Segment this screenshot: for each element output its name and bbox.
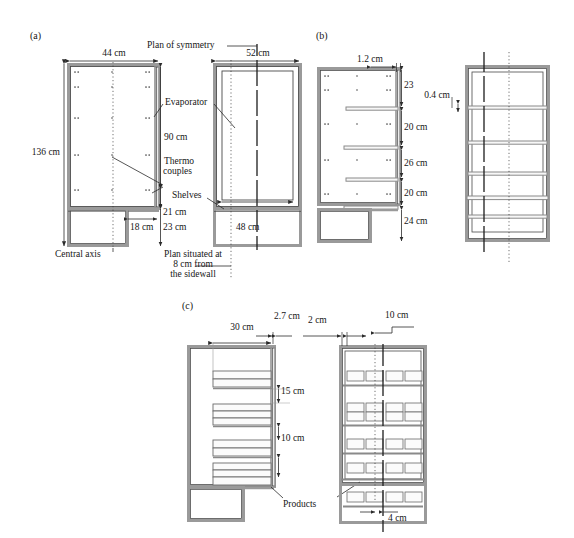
panel-tag-c: (c) (182, 300, 193, 311)
dim-label-44cm: 44 cm (84, 48, 144, 59)
dim-label-b-26: 26 cm (404, 158, 427, 169)
dim-label-15cm: 15 cm (281, 386, 304, 397)
dim-label-23cm: 23 cm (163, 222, 186, 233)
panel-tag-a: (a) (30, 30, 41, 41)
panel-b-front-cabinet (467, 52, 549, 262)
dim-label-1_2cm: 1.2 cm (345, 54, 395, 65)
dim-label-18cm: 18 cm (130, 222, 153, 233)
dim-2_7cm (256, 332, 292, 344)
dim-10cm-top (375, 327, 414, 333)
panel-a-front-cabinet (214, 44, 301, 278)
dim-label-136cm: 136 cm (14, 147, 60, 158)
dim-label-b-24: 24 cm (404, 216, 427, 227)
dim-label-10cm-top: 10 cm (385, 310, 408, 321)
figure-canvas: (a) (b) (c) Plan of symmetry 44 cm 52 cm… (0, 0, 574, 538)
technical-drawing-svg (0, 0, 574, 538)
dim-label-4cm: 4 cm (388, 513, 407, 524)
dim-label-90cm: 90 cm (164, 132, 187, 143)
dim-2cm (303, 332, 366, 346)
panel-b-side-cabinet (318, 69, 400, 242)
dim-label-30cm: 30 cm (212, 322, 272, 333)
label-plan-of-symmetry: Plan of symmetry (147, 40, 215, 51)
label-evaporator: Evaporator (165, 97, 207, 108)
dim-0_4cm (452, 97, 458, 112)
panel-c-side-cabinet (188, 347, 275, 521)
dim-label-b-20b: 20 cm (404, 188, 427, 199)
dim-label-48cm: 48 cm (236, 222, 259, 233)
label-couples: couples (163, 166, 192, 177)
panel-tag-b: (b) (316, 30, 328, 41)
label-plan-note-3: the sidewall (133, 269, 253, 280)
dim-label-b-20a: 20 cm (404, 122, 427, 133)
panel-a-side-cabinet (68, 62, 163, 248)
label-central-axis: Central axis (55, 249, 101, 260)
panel-c-front-cabinet (341, 344, 426, 532)
label-shelves: Shelves (172, 190, 202, 201)
dim-label-0_4cm: 0.4 cm (410, 90, 450, 101)
dim-label-2_7cm: 2.7 cm (274, 311, 300, 322)
dim-label-21cm: 21 cm (163, 207, 186, 218)
dim-label-52cm: 52 cm (228, 48, 288, 59)
dim-label-2cm: 2 cm (308, 315, 327, 326)
label-products: Products (283, 499, 316, 510)
dim-label-10cm-mid: 10 cm (281, 433, 304, 444)
